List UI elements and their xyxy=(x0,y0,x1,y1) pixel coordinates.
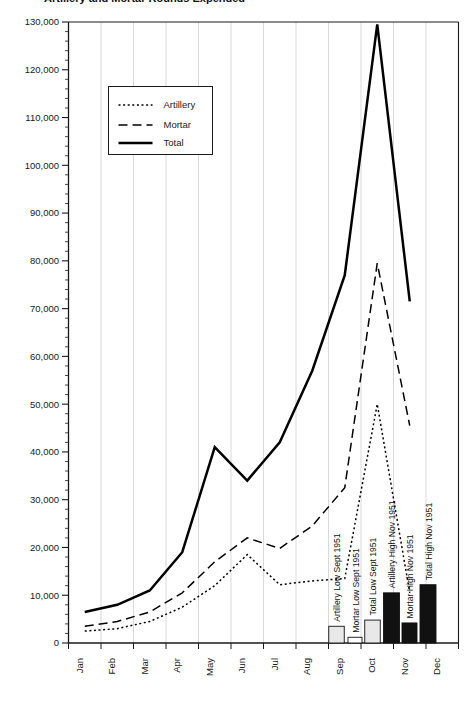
legend-label-total: Total xyxy=(164,137,184,148)
y-axis-tick-label: 130,000 xyxy=(25,16,59,27)
annotation-bar xyxy=(348,637,362,643)
legend-box xyxy=(109,87,213,155)
annotation-bar xyxy=(420,585,436,643)
y-axis-tick-label: 120,000 xyxy=(25,64,59,75)
chart-container: 010,00020,00030,00040,00050,00060,00070,… xyxy=(0,0,469,703)
x-axis-tick-label: Sep xyxy=(334,658,345,675)
x-axis-tick-label: Mar xyxy=(139,658,150,674)
y-axis-tick-label: 90,000 xyxy=(30,207,59,218)
annotation-bar-label: Total Low Sept 1951 xyxy=(368,537,378,615)
annotation-bar-label: Mortar High Nov 1951 xyxy=(405,534,415,618)
y-axis-tick-label: 110,000 xyxy=(25,112,59,123)
annotation-bar-label: Total High Nov 1951 xyxy=(424,503,434,581)
y-axis-tick-label: 10,000 xyxy=(30,590,59,601)
chart-title: Artillery and Mortar Rounds Expended xyxy=(44,0,245,4)
y-axis-tick-label: 20,000 xyxy=(30,542,59,553)
x-axis-tick-label: Feb xyxy=(106,658,117,674)
annotation-bar xyxy=(384,593,400,643)
x-axis-tick-label: Jun xyxy=(236,658,247,673)
annotation-bar xyxy=(365,620,381,643)
annotation-bar xyxy=(329,626,345,643)
annotation-bar xyxy=(402,623,417,643)
y-axis-tick-label: 60,000 xyxy=(30,351,59,362)
x-axis-tick-label: May xyxy=(204,658,215,676)
x-axis-tick-label: Aug xyxy=(301,658,312,675)
y-axis-tick-label: 50,000 xyxy=(30,399,59,410)
x-axis-tick-label: Jul xyxy=(269,658,280,670)
y-axis-tick-label: 100,000 xyxy=(25,160,59,171)
x-axis-tick-label: Jan xyxy=(74,658,85,673)
x-axis-tick-label: Nov xyxy=(399,658,410,675)
y-axis-tick-label: 80,000 xyxy=(30,255,59,266)
x-axis-tick-label: Dec xyxy=(431,658,442,675)
annotation-bar-label: Artillery Low Sept 1951 xyxy=(332,533,342,622)
y-axis-tick-label: 0 xyxy=(54,637,59,648)
y-axis-tick-label: 40,000 xyxy=(30,446,59,457)
annotation-bar-label: Artillery High Nov 1951 xyxy=(387,500,397,588)
x-axis-tick-label: Apr xyxy=(171,658,182,673)
legend-label-artillery: Artillery xyxy=(164,99,196,110)
legend-label-mortar: Mortar xyxy=(164,119,191,130)
y-axis-tick-label: 30,000 xyxy=(30,494,59,505)
x-axis-tick-label: Oct xyxy=(366,658,377,673)
artillery-mortar-line-chart: 010,00020,00030,00040,00050,00060,00070,… xyxy=(0,0,469,703)
chart-legend: ArtilleryMortarTotal xyxy=(109,87,213,155)
y-axis-tick-label: 70,000 xyxy=(30,303,59,314)
annotation-bar-label: Mortar Low Sept 1951 xyxy=(351,548,361,633)
